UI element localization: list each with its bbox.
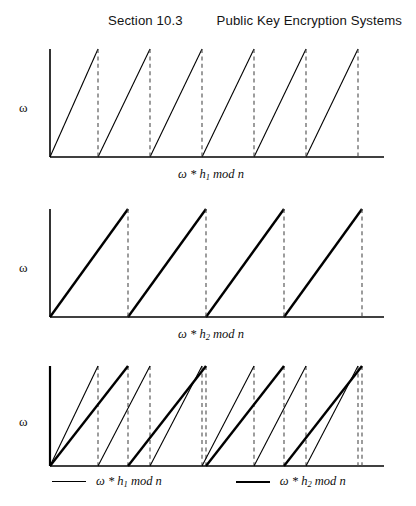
legend-label-h1-subscript: 1 [124, 479, 128, 489]
caption-h2-tail: mod n [210, 327, 244, 341]
chart-overlay [0, 360, 416, 474]
plot-area-h2: ω [0, 202, 416, 327]
caption-h1-subscript: 1 [206, 172, 210, 182]
legend-label-h1-text: ω * h [96, 474, 124, 488]
figure-h1: ω ω * h1 mod n [0, 42, 416, 182]
y-axis-label-omega: ω [19, 415, 28, 428]
legend-label-h2-tail: mod n [312, 474, 346, 488]
caption-h1-text: ω * h [178, 167, 206, 181]
chart-h2 [0, 202, 416, 327]
plot-area-h1: ω [0, 42, 416, 167]
legend-label-h2: ω * h2 mod n [280, 474, 346, 489]
figure-legend: ω * h1 mod n ω * h2 mod n [0, 474, 416, 489]
legend-label-h2-subscript: 2 [307, 479, 311, 489]
legend-label-h1-tail: mod n [128, 474, 162, 488]
legend-label-h1: ω * h1 mod n [96, 474, 162, 489]
caption-h2-text: ω * h [178, 327, 206, 341]
legend-line-thin-icon [52, 481, 86, 482]
legend-item-h2: ω * h2 mod n [236, 474, 346, 489]
caption-h1-tail: mod n [210, 167, 244, 181]
y-axis-label-omega: ω [19, 261, 28, 274]
legend-line-thick-icon [236, 481, 270, 483]
caption-h2: ω * h2 mod n [0, 327, 416, 342]
header-section-number: Section 10.3 [108, 13, 183, 28]
figure-h2: ω ω * h2 mod n [0, 202, 416, 342]
series-h1-ramps [50, 49, 358, 157]
caption-h1: ω * h1 mod n [0, 167, 416, 182]
page-header: Section 10.3 Public Key Encryption Syste… [0, 13, 416, 28]
legend-label-h2-text: ω * h [280, 474, 308, 488]
caption-h2-subscript: 2 [206, 332, 210, 342]
header-title: Public Key Encryption Systems [217, 13, 402, 28]
overlay-series-h1 [50, 366, 358, 466]
plot-area-overlay: ω [0, 360, 416, 474]
chart-h1 [0, 42, 416, 167]
y-axis-label-omega: ω [19, 101, 28, 114]
figure-overlay: ω [0, 360, 416, 474]
legend-item-h1: ω * h1 mod n [52, 474, 162, 489]
